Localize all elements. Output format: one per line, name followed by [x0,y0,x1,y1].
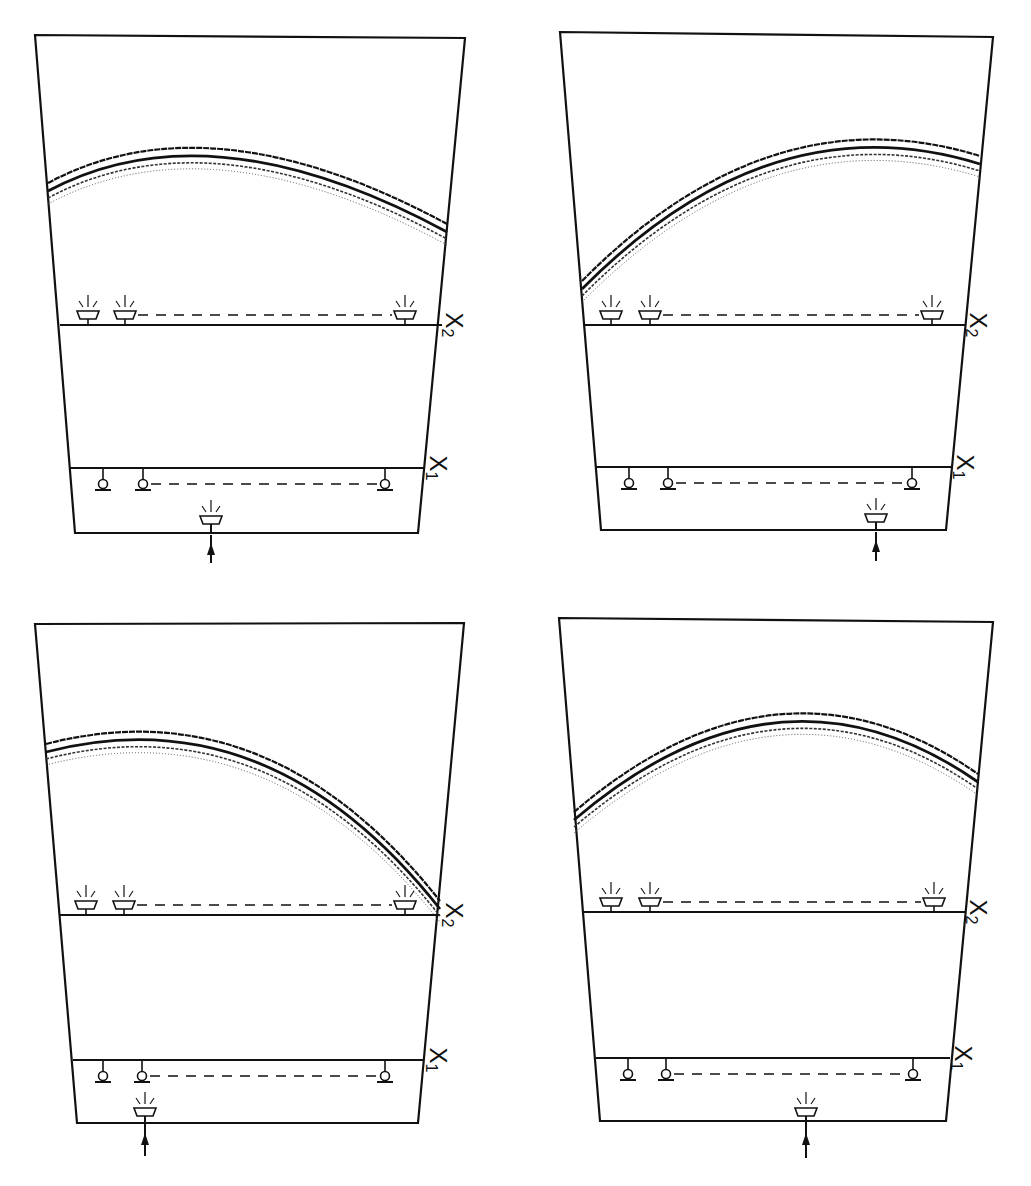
figure-canvas: X2X1X2X1X2X1X2X1 [0,0,1031,1186]
x2-plane-label: X2 [963,313,992,338]
x1-plane-label: X1 [423,1048,452,1073]
arrowhead-icon [872,540,880,552]
receiver-x1-icon [377,468,393,490]
x2-plane-label: X2 [963,900,992,925]
receiver-x2-icon [394,885,416,915]
wavefront-faint [574,734,978,833]
receiver-x2-icon [600,882,622,912]
receiver-x1-icon [905,1058,921,1080]
receiver-x1-icon [377,1060,393,1082]
x2-plane-label: X2 [439,903,468,928]
receiver-x2-icon [394,295,416,325]
arrowhead-icon [802,1133,810,1145]
panel-outline [560,32,993,530]
receiver-x2-icon [639,295,661,325]
panel-top-right: X2X1 [560,32,993,561]
wavefront-middle [46,740,440,909]
emitter-icon [865,498,887,531]
wavefront-inner [574,728,978,827]
receiver-x2-icon [600,295,622,325]
receiver-x1-icon [95,1060,111,1082]
panel-bottom-right: X2X1 [559,618,993,1158]
panel-bottom-left: X2X1 [35,623,468,1156]
receiver-x2-icon [114,295,136,325]
receiver-x2-icon [77,295,99,325]
receiver-x2-icon [921,295,943,325]
receiver-x1-icon [658,1058,674,1080]
wavefront-inner [46,747,440,916]
emitter-icon [200,500,222,533]
wavefront-middle [574,721,978,820]
receiver-x2-icon [113,885,135,915]
receiver-x1-icon [904,467,920,489]
emitter-icon [134,1092,156,1125]
x1-plane-label: X1 [948,1046,977,1071]
receiver-x1-icon [620,1058,636,1080]
panel-outline [35,623,464,1123]
wavefront-inner [582,154,980,296]
receiver-x2-icon [639,882,661,912]
panel-outline [559,618,993,1121]
receiver-x2-icon [923,882,945,912]
arrowhead-icon [207,543,215,555]
x2-plane-label: X2 [439,313,468,338]
x1-plane-label: X1 [950,455,979,480]
receiver-x1-icon [134,1060,150,1082]
wavefront-outer [574,713,978,812]
panel-top-left: X2X1 [35,35,468,563]
receiver-x1-icon [621,467,637,489]
wavefront-faint [48,169,447,245]
receiver-x1-icon [135,468,151,490]
receiver-x2-icon [75,885,97,915]
receiver-x1-icon [660,467,676,489]
receiver-x1-icon [95,468,111,490]
arrowhead-icon [141,1133,149,1145]
x1-plane-label: X1 [423,456,452,481]
wavefront-inner [48,163,447,239]
panel-outline [35,35,465,533]
wavefront-faint [582,160,980,302]
